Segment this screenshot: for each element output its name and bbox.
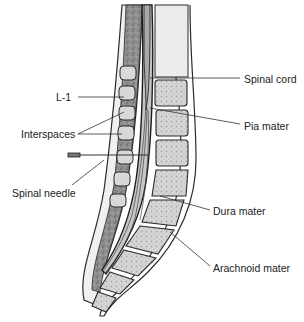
label-pia-mater: Pia mater xyxy=(244,120,289,132)
label-dura-mater: Dura mater xyxy=(213,205,266,217)
label-interspaces: Interspaces xyxy=(21,128,75,140)
label-spinal-cord: Spinal cord xyxy=(244,73,297,85)
label-arachnoid-mater: Arachnoid mater xyxy=(213,262,290,274)
upper-anterior-tissue xyxy=(155,5,188,77)
label-l1: L-1 xyxy=(56,91,71,103)
label-spinal-needle: Spinal needle xyxy=(12,187,76,199)
